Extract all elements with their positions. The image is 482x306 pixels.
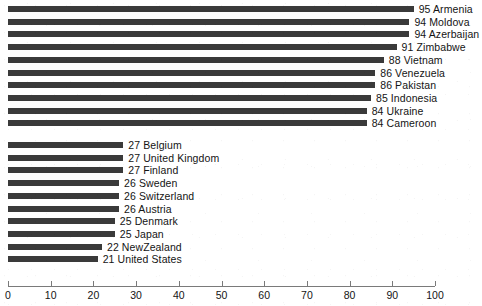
bar-value-label: 94 Moldova (414, 16, 469, 29)
x-axis-tick-label: 10 (45, 289, 57, 301)
x-axis-tick-label: 40 (173, 289, 185, 301)
x-axis-tick-label: 50 (216, 289, 228, 301)
bar (8, 206, 119, 212)
bar-chart: 95 Armenia94 Moldova94 Azerbaijan91 Zimb… (0, 0, 482, 306)
x-axis-tick (93, 281, 94, 286)
bar-value-label: 25 Japan (120, 228, 164, 241)
x-axis-tick (179, 281, 180, 286)
bar-row: 27 United Kingdom (0, 155, 482, 168)
bar-value-label: 95 Armenia (419, 3, 473, 16)
bar-value-label: 26 Switzerland (124, 190, 194, 203)
x-axis-tick (222, 281, 223, 286)
bar (8, 218, 115, 224)
bar-value-label: 21 United States (103, 253, 182, 266)
bar (8, 57, 384, 63)
bar-value-label: 27 United Kingdom (128, 152, 219, 165)
x-axis-tick-label: 20 (88, 289, 100, 301)
bar-value-label: 22 NewZealand (107, 241, 182, 254)
bar (8, 256, 98, 262)
bar-value-label: 26 Sweden (124, 177, 177, 190)
bar (8, 82, 375, 88)
x-axis-tick (264, 281, 265, 286)
plot-area: 95 Armenia94 Moldova94 Azerbaijan91 Zimb… (0, 0, 482, 278)
bar (8, 95, 371, 101)
bar-value-label: 94 Azerbaijan (414, 28, 479, 41)
bar (8, 167, 123, 173)
bar-row: 22 NewZealand (0, 244, 482, 257)
bar-row: 84 Cameroon (0, 120, 482, 133)
bar-value-label: 85 Indonesia (376, 92, 437, 105)
bar (8, 155, 123, 161)
bar (8, 31, 409, 37)
bar-row: 27 Finland (0, 167, 482, 180)
bar-value-label: 84 Cameroon (372, 117, 437, 130)
x-axis-tick-label: 30 (130, 289, 142, 301)
bar (8, 244, 102, 250)
x-axis-tick (392, 281, 393, 286)
bar (8, 142, 123, 148)
bar (8, 193, 119, 199)
bar (8, 70, 375, 76)
bar-row: 95 Armenia (0, 6, 482, 19)
bar (8, 19, 409, 25)
x-axis-tick (136, 281, 137, 286)
bar-row: 25 Denmark (0, 218, 482, 231)
bar-row: 25 Japan (0, 231, 482, 244)
x-axis-tick-label: 70 (301, 289, 313, 301)
bar-value-label: 88 Vietnam (389, 54, 443, 67)
bar-row: 26 Austria (0, 206, 482, 219)
bar-value-label: 84 Ukraine (372, 105, 424, 118)
x-axis-tick-label: 60 (258, 289, 270, 301)
bar-row: 27 Belgium (0, 142, 482, 155)
bar-value-label: 86 Pakistan (380, 79, 436, 92)
x-axis-tick (350, 281, 351, 286)
bar-value-label: 91 Zimbabwe (402, 41, 466, 54)
bar (8, 180, 119, 186)
x-axis-line (8, 286, 435, 287)
bar-row: 26 Switzerland (0, 193, 482, 206)
x-axis-tick-label: 0 (5, 289, 11, 301)
bar (8, 231, 115, 237)
bar-value-label: 25 Denmark (120, 215, 178, 228)
bar-row: 94 Moldova (0, 19, 482, 32)
bar (8, 44, 397, 50)
x-axis-tick (435, 281, 436, 286)
x-axis-tick-label: 80 (344, 289, 356, 301)
bar-value-label: 86 Venezuela (380, 67, 445, 80)
x-axis-tick (8, 281, 9, 286)
x-axis: 0102030405060708090100 (0, 278, 482, 306)
x-axis-tick-label: 100 (426, 289, 444, 301)
bar (8, 120, 367, 126)
bar (8, 108, 367, 114)
bar (8, 6, 414, 12)
x-axis-tick (51, 281, 52, 286)
bar-value-label: 27 Belgium (128, 139, 182, 152)
bar-row: 26 Sweden (0, 180, 482, 193)
x-axis-tick-label: 90 (386, 289, 398, 301)
bar-value-label: 27 Finland (128, 164, 178, 177)
bar-value-label: 26 Austria (124, 203, 172, 216)
bar-row: 21 United States (0, 256, 482, 269)
x-axis-tick (307, 281, 308, 286)
